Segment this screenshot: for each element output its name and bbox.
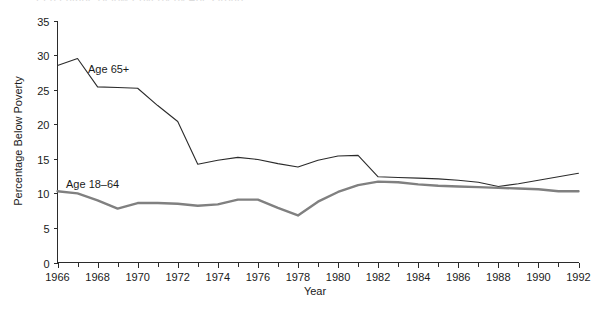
y-tick-label: 5	[43, 223, 49, 235]
y-tick-label: 15	[37, 154, 49, 166]
x-tick-label: 1970	[125, 271, 149, 283]
y-tick-label: 30	[37, 50, 49, 62]
x-tick-label: 1984	[406, 271, 430, 283]
axis-lines	[58, 21, 579, 263]
y-tick-label: 10	[37, 188, 49, 200]
x-tick-label: 1988	[486, 271, 510, 283]
x-tick-label: 1976	[246, 271, 270, 283]
x-tick-label: 1972	[165, 271, 189, 283]
y-axis-ticks	[54, 22, 58, 264]
x-axis-tick-labels: 1966196819701972197419761978198019821984…	[45, 271, 590, 283]
x-tick-label: 1990	[526, 271, 550, 283]
x-axis-title: Year	[304, 285, 327, 297]
poverty-line-chart: 05101520253035 1966196819701972197419761…	[0, 0, 599, 309]
y-tick-label: 20	[37, 119, 49, 131]
series-label-age-65-plus: Age 65+	[88, 63, 129, 75]
y-axis-tick-labels: 05101520253035	[37, 16, 49, 270]
x-axis-minor-ticks	[59, 263, 580, 268]
series-line-age-65	[58, 59, 579, 187]
x-tick-label: 1966	[45, 271, 69, 283]
x-tick-label: 1974	[206, 271, 230, 283]
x-tick-label: 1992	[566, 271, 590, 283]
series-label-age-18-64: Age 18–64	[66, 178, 119, 190]
x-tick-label: 1968	[85, 271, 109, 283]
x-tick-label: 1978	[286, 271, 310, 283]
x-tick-label: 1986	[446, 271, 470, 283]
y-tick-label: 0	[43, 258, 49, 270]
data-series-group	[58, 59, 579, 216]
figure-container: Percentage Below Poverty by Age Group 05…	[0, 0, 599, 309]
plot-axes	[58, 21, 579, 263]
y-axis-title: Percentage Below Poverty	[12, 76, 24, 206]
y-tick-label: 35	[37, 16, 49, 28]
y-tick-label: 25	[37, 85, 49, 97]
x-tick-label: 1980	[326, 271, 350, 283]
x-tick-label: 1982	[366, 271, 390, 283]
